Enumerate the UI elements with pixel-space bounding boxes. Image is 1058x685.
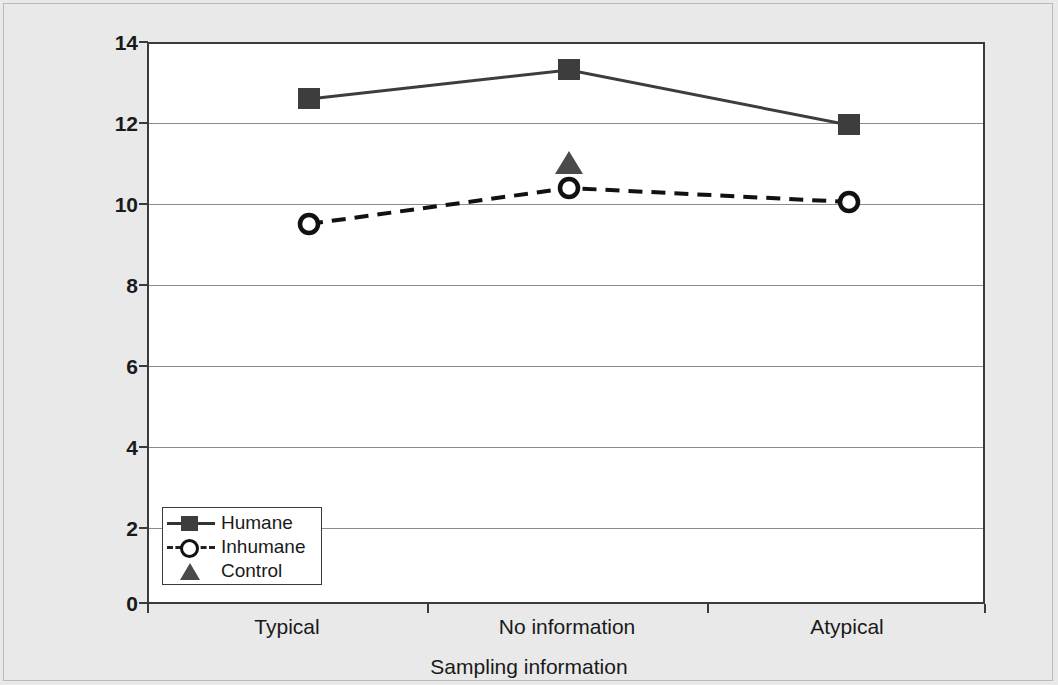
data-point-humane-no-information: [558, 59, 580, 80]
legend-label-control: Control: [221, 558, 282, 584]
y-tick-label-10: 10: [78, 193, 138, 217]
series-line-inhumane: [309, 188, 849, 224]
open-circle-icon: [180, 539, 199, 558]
x-tick-label-no-information: No information: [447, 615, 687, 639]
legend-item-humane: Humane: [163, 510, 321, 536]
y-tick-label-0: 0: [78, 592, 138, 616]
legend-key-inhumane: [163, 534, 221, 560]
y-tick-label-12: 12: [78, 112, 138, 136]
legend-item-inhumane: Inhumane: [163, 534, 321, 560]
x-axis-label: Sampling information: [0, 655, 1058, 679]
x-tick-mark-1: [427, 604, 429, 613]
filled-triangle-icon: [180, 563, 200, 580]
plot-area: Humane Inhumane Control: [147, 42, 985, 604]
legend-label-inhumane: Inhumane: [221, 534, 306, 560]
y-tick-label-6: 6: [78, 355, 138, 379]
data-point-humane-atypical: [838, 114, 860, 135]
y-tick-label-14: 14: [78, 31, 138, 55]
x-tick-mark-2: [707, 604, 709, 613]
data-point-inhumane-atypical: [840, 193, 858, 211]
data-point-control-no-information: [555, 151, 583, 174]
legend-key-humane: [163, 510, 221, 536]
filled-square-icon: [181, 516, 198, 531]
chart-figure: Mean attitude 14 12 10 8 6 4 2 0: [0, 0, 1058, 685]
legend-label-humane: Humane: [221, 510, 293, 536]
x-tick-label-atypical: Atypical: [727, 615, 967, 639]
y-tick-label-8: 8: [78, 274, 138, 298]
x-tick-label-typical: Typical: [167, 615, 407, 639]
y-tick-label-4: 4: [78, 436, 138, 460]
legend-item-control: Control: [163, 558, 321, 584]
chart-legend: Humane Inhumane Control: [162, 507, 322, 585]
data-point-humane-typical: [298, 88, 320, 109]
data-point-inhumane-no-information: [560, 179, 578, 197]
data-point-inhumane-typical: [300, 215, 318, 233]
x-tick-mark-3: [984, 604, 986, 613]
legend-key-control: [163, 558, 221, 584]
x-tick-mark-0: [147, 604, 149, 613]
y-tick-label-2: 2: [78, 517, 138, 541]
